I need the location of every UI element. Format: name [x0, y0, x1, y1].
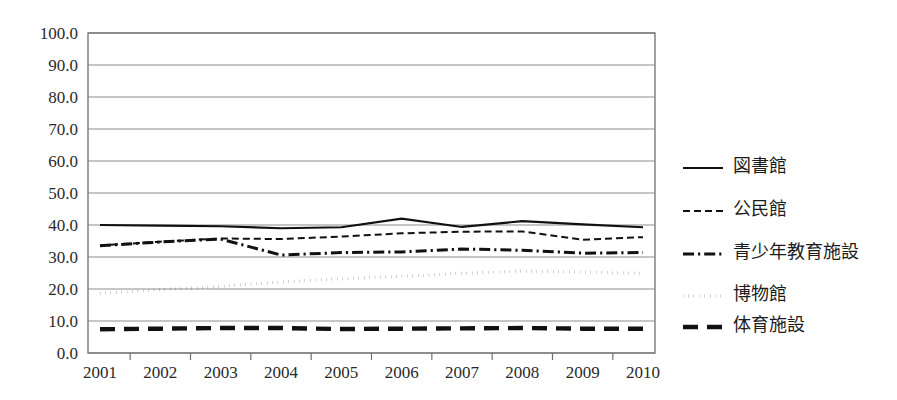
y-tick-label: 0.0 [57, 344, 78, 363]
line-chart-figure: 100.090.080.070.060.050.040.030.020.010.… [0, 0, 897, 400]
chart-canvas: 100.090.080.070.060.050.040.030.020.010.… [0, 0, 897, 400]
legend-label-2: 公民館 [733, 199, 787, 219]
y-tick-label: 100.0 [40, 24, 78, 43]
x-tick-label: 2001 [83, 363, 117, 382]
legend-label-5: 体育施設 [733, 315, 805, 335]
y-tick-label: 40.0 [48, 216, 78, 235]
legend-label-4: 博物館 [733, 284, 787, 304]
x-tick-label: 2002 [143, 363, 177, 382]
y-tick-label: 90.0 [48, 56, 78, 75]
legend-label-1: 図書館 [733, 156, 787, 176]
x-tick-label: 2009 [566, 363, 600, 382]
x-tick-label: 2003 [204, 363, 238, 382]
y-tick-label: 10.0 [48, 312, 78, 331]
x-tick-label: 2010 [626, 363, 660, 382]
y-tick-label: 50.0 [48, 184, 78, 203]
x-tick-label: 2008 [505, 363, 539, 382]
y-tick-label: 80.0 [48, 88, 78, 107]
x-tick-label: 2004 [264, 363, 299, 382]
y-tick-label: 20.0 [48, 280, 78, 299]
y-tick-label: 60.0 [48, 152, 78, 171]
legend-label-3: 青少年教育施設 [733, 242, 859, 262]
series-line-5 [100, 328, 643, 329]
x-tick-label: 2005 [324, 363, 358, 382]
x-tick-label: 2007 [445, 363, 480, 382]
y-tick-label: 30.0 [48, 248, 78, 267]
x-tick-label: 2006 [385, 363, 419, 382]
y-tick-label: 70.0 [48, 120, 78, 139]
